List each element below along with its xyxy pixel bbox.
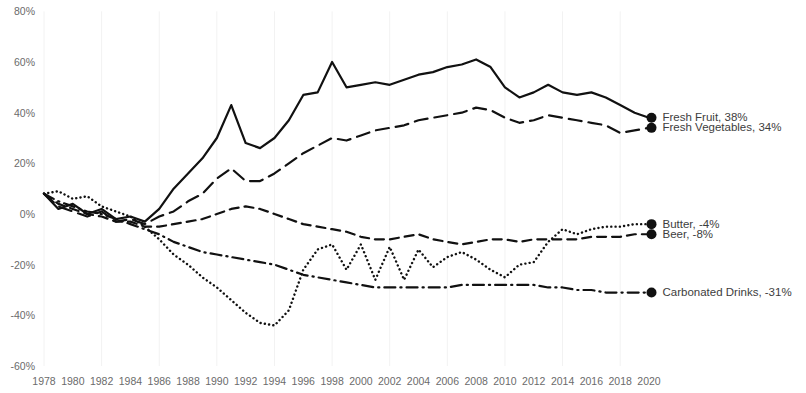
x-axis-tick-label: 2000: [349, 375, 373, 387]
x-axis-tick-label: 2016: [580, 375, 604, 387]
series-label-carbonated-drinks: Carbonated Drinks, -31%: [663, 286, 792, 298]
series-line-butter: [44, 191, 649, 325]
x-axis-tick-label: 1994: [263, 375, 287, 387]
x-axis-tick-label: 1988: [176, 375, 200, 387]
x-axis-tick-label: 1982: [90, 375, 114, 387]
x-axis-tick-label: 2012: [522, 375, 546, 387]
x-axis-tick-label: 2002: [378, 375, 402, 387]
x-axis-tick-label: 2008: [464, 375, 488, 387]
x-axis-tick-label: 2018: [609, 375, 633, 387]
series-line-fresh-vegetables: [44, 108, 649, 225]
y-axis-tick-label: 40%: [14, 107, 35, 119]
x-axis-tick-label: 1992: [234, 375, 258, 387]
y-axis-tick-labels: 80%60%40%20%0%-20%-40%-60%: [10, 5, 35, 372]
y-axis-tick-label: -20%: [10, 259, 35, 271]
x-axis-tick-label: 2006: [436, 375, 460, 387]
y-axis-tick-label: 0%: [20, 208, 35, 220]
series-endpoint-markers: [647, 113, 657, 298]
x-axis-tick-label: 2014: [551, 375, 575, 387]
series-line-carbonated-drinks: [44, 194, 649, 293]
x-axis-tick-label: 1978: [32, 375, 56, 387]
endpoint-marker-fresh-vegetables: [647, 123, 657, 133]
endpoint-marker-carbonated-drinks: [647, 288, 657, 298]
endpoint-marker-butter: [647, 219, 657, 229]
series-label-fresh-vegetables: Fresh Vegetables, 34%: [663, 121, 782, 133]
x-axis-tick-label: 2010: [493, 375, 517, 387]
x-axis-tick-label: 1990: [205, 375, 229, 387]
line-chart: 80%60%40%20%0%-20%-40%-60% 1978198019821…: [0, 0, 806, 393]
series-end-labels: Fresh Fruit, 38%Fresh Vegetables, 34%But…: [663, 111, 792, 298]
y-axis-tick-label: -40%: [10, 309, 35, 321]
y-axis-tick-label: 80%: [14, 5, 35, 17]
chart-canvas: 80%60%40%20%0%-20%-40%-60% 1978198019821…: [0, 0, 806, 393]
x-axis-tick-label: 1998: [320, 375, 344, 387]
series-lines-group: [44, 59, 649, 325]
x-axis-tick-label: 1986: [148, 375, 172, 387]
x-axis-tick-label: 1980: [61, 375, 85, 387]
series-label-beer: Beer, -8%: [663, 228, 714, 240]
endpoint-marker-fresh-fruit: [647, 113, 657, 123]
endpoint-marker-beer: [647, 229, 657, 239]
y-axis-tick-label: 20%: [14, 157, 35, 169]
y-axis-tick-label: 60%: [14, 56, 35, 68]
x-axis-tick-labels: 1978198019821984198619881990199219941996…: [32, 375, 661, 387]
x-axis-tick-label: 1984: [119, 375, 143, 387]
x-axis-tick-label: 1996: [292, 375, 316, 387]
y-axis-tick-label: -60%: [10, 360, 35, 372]
x-axis-tick-label: 2020: [637, 375, 661, 387]
x-axis-tick-label: 2004: [407, 375, 431, 387]
